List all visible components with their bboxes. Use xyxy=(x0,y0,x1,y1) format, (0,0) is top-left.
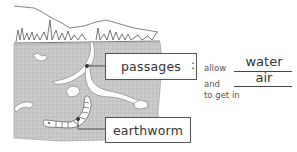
earthworm-label: earthworm xyxy=(105,117,191,143)
grass xyxy=(14,20,160,43)
passages-label-text: passages xyxy=(121,59,181,74)
answer-water: water xyxy=(236,54,292,69)
colon: : xyxy=(191,58,195,72)
answer-air: air xyxy=(236,70,292,85)
hills-outline xyxy=(14,6,158,32)
and-text: and xyxy=(204,79,220,89)
earthworm-label-text: earthworm xyxy=(113,123,183,138)
to-get-in-text: to get in xyxy=(204,90,240,100)
passages-label: passages xyxy=(105,53,197,80)
allow-text: allow xyxy=(204,63,226,73)
blank-2-underline xyxy=(234,86,292,87)
